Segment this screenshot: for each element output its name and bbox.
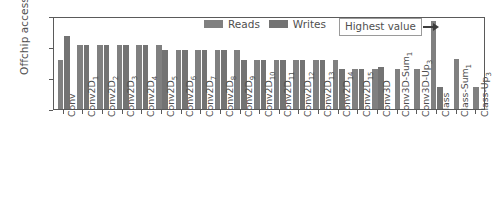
x-axis-tick-label: Conv2D9 [243, 76, 254, 117]
x-axis-tick-label: Conv [66, 93, 77, 117]
bar-reads [333, 60, 339, 109]
x-axis-tick-mark [220, 110, 221, 114]
x-axis-tick-label: Conv3D-Up3 [420, 60, 431, 117]
x-axis-tick-mark [63, 110, 64, 114]
x-axis-tick-label: Conv2D8 [224, 76, 235, 117]
x-axis-tick-mark [200, 110, 201, 114]
x-axis-tick-mark [397, 110, 398, 114]
x-axis-tick-mark [377, 110, 378, 114]
legend-item-writes: Writes [269, 19, 326, 30]
x-axis-tick-mark [161, 110, 162, 114]
x-axis-tick-mark [259, 110, 260, 114]
bar-reads [313, 60, 319, 109]
x-axis-tick-mark [416, 110, 417, 114]
x-axis-tick-label: Conv2D11 [282, 72, 293, 117]
x-axis-tick-label: Conv2D13 [322, 72, 333, 117]
bar-reads [77, 45, 83, 109]
x-axis-tick-mark [279, 110, 280, 114]
y-axis-tick-mark [49, 110, 53, 111]
x-axis-tick-label: Conv2D12 [302, 72, 313, 117]
x-axis-tick-mark [240, 110, 241, 114]
chart-legend: ReadsWrites [204, 19, 326, 30]
x-axis-tick-label: Conv3D-Sum1 [400, 52, 411, 117]
x-axis-tick-label: Conv2D10 [263, 72, 274, 117]
x-axis-tick-mark [82, 110, 83, 114]
legend-item-reads: Reads [204, 19, 260, 30]
chart-figure: Offchip accesses 107105103101 ConvConv2D… [0, 0, 493, 198]
x-axis-tick-label: Conv2D7 [204, 76, 215, 117]
x-axis-tick-label: Conv2D1 [86, 76, 97, 117]
x-axis-tick-label: Class-Sum1 [459, 64, 470, 117]
x-axis-tick-label: Class-Up3 [479, 72, 490, 117]
arrow-right-icon [423, 22, 440, 31]
annotation-label: Highest value [339, 18, 422, 36]
bar-reads [58, 60, 64, 109]
x-axis-tick-mark [141, 110, 142, 114]
x-axis-tick-mark [298, 110, 299, 114]
legend-label: Reads [228, 19, 260, 30]
bar-reads [254, 60, 260, 109]
x-axis-tick-mark [338, 110, 339, 114]
x-axis-tick-label: Conv3D [381, 80, 392, 117]
legend-label: Writes [293, 19, 326, 30]
legend-swatch-icon [269, 20, 288, 28]
x-axis-tick-mark [122, 110, 123, 114]
bar-reads [274, 60, 280, 109]
x-axis-tick-mark [475, 110, 476, 114]
legend-swatch-icon [204, 20, 223, 28]
x-axis-tick-label: Conv2D4 [145, 76, 156, 117]
x-axis-tick-label: Conv2D15 [361, 72, 372, 117]
bar-reads [293, 60, 299, 109]
x-axis-tick-mark [436, 110, 437, 114]
x-axis-tick-mark [181, 110, 182, 114]
y-axis-label: Offchip accesses [18, 0, 30, 85]
x-axis-tick-label: Conv2D6 [184, 76, 195, 117]
x-axis-tick-label: Conv2D2 [106, 76, 117, 117]
x-axis-tick-mark [102, 110, 103, 114]
x-axis-tick-mark [318, 110, 319, 114]
x-axis-tick-label: Class [440, 93, 451, 117]
highest-value-annotation: Highest value [339, 18, 440, 36]
x-axis-tick-label: Conv2D14 [341, 72, 352, 117]
x-axis-tick-mark [357, 110, 358, 114]
x-axis-tick-label: Conv2D5 [165, 76, 176, 117]
x-axis-tick-label: Conv2D3 [125, 76, 136, 117]
x-axis-tick-mark [456, 110, 457, 114]
